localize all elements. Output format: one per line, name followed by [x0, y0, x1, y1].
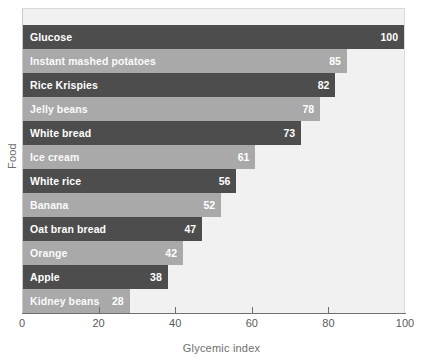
bar-row: Jelly beans78 [23, 97, 404, 121]
bar-category-label: Instant mashed potatoes [23, 55, 156, 67]
bar-row: Rice Krispies82 [23, 73, 404, 97]
bar: Orange42 [23, 241, 183, 265]
bar-category-label: Jelly beans [23, 103, 88, 115]
glycemic-index-bar-chart: Food Glucose100Instant mashed potatoes85… [0, 0, 443, 364]
bar-value-label: 82 [318, 79, 336, 91]
bar-category-label: Ice cream [23, 151, 79, 163]
bar-row: Ice cream61 [23, 145, 404, 169]
bar: Banana52 [23, 193, 221, 217]
bar-row: Banana52 [23, 193, 404, 217]
bar-value-label: 28 [112, 295, 130, 307]
bar: Kidney beans28 [23, 289, 130, 313]
bar-value-label: 100 [380, 31, 404, 43]
bar: Apple38 [23, 265, 168, 289]
bar: Instant mashed potatoes85 [23, 49, 347, 73]
bar-value-label: 38 [150, 271, 168, 283]
x-tick [175, 307, 176, 313]
bar-series: Glucose100Instant mashed potatoes85Rice … [23, 25, 404, 313]
bar-category-label: Apple [23, 271, 60, 283]
y-axis-title: Food [6, 126, 18, 186]
bar-category-label: Banana [23, 199, 69, 211]
x-tick-label: 0 [19, 317, 25, 329]
bar: White bread73 [23, 121, 301, 145]
bar-value-label: 61 [238, 151, 256, 163]
bar-row: Apple38 [23, 265, 404, 289]
x-tick-label: 100 [396, 317, 414, 329]
bar-value-label: 85 [329, 55, 347, 67]
bar-category-label: Rice Krispies [23, 79, 98, 91]
x-tick-label: 80 [322, 317, 334, 329]
bar-value-label: 73 [283, 127, 301, 139]
bar-value-label: 47 [184, 223, 202, 235]
x-tick-label: 60 [246, 317, 258, 329]
bar-category-label: White bread [23, 127, 91, 139]
bar-row: Glucose100 [23, 25, 404, 49]
x-tick [328, 307, 329, 313]
bar-row: White bread73 [23, 121, 404, 145]
x-tick-label: 20 [92, 317, 104, 329]
x-axis-line [22, 313, 406, 314]
bar: Rice Krispies82 [23, 73, 335, 97]
x-tick [252, 307, 253, 313]
bar: Glucose100 [23, 25, 404, 49]
bar-value-label: 52 [203, 199, 221, 211]
bar-category-label: Kidney beans [23, 295, 99, 307]
x-axis-title: Glycemic index [0, 342, 443, 354]
bar-category-label: White rice [23, 175, 81, 187]
x-tick [99, 307, 100, 313]
bar-category-label: Orange [23, 247, 67, 259]
bar: Jelly beans78 [23, 97, 320, 121]
bar-value-label: 78 [302, 103, 320, 115]
bar: White rice56 [23, 169, 236, 193]
bar: Ice cream61 [23, 145, 255, 169]
bar-value-label: 42 [165, 247, 183, 259]
bar-row: Oat bran bread47 [23, 217, 404, 241]
bar-row: Kidney beans28 [23, 289, 404, 313]
bar-row: White rice56 [23, 169, 404, 193]
bar-value-label: 56 [219, 175, 237, 187]
x-tick-label: 40 [169, 317, 181, 329]
bar-row: Instant mashed potatoes85 [23, 49, 404, 73]
bar-category-label: Oat bran bread [23, 223, 106, 235]
bar-row: Orange42 [23, 241, 404, 265]
plot-area: Glucose100Instant mashed potatoes85Rice … [22, 8, 405, 313]
bar-category-label: Glucose [23, 31, 72, 43]
bar: Oat bran bread47 [23, 217, 202, 241]
